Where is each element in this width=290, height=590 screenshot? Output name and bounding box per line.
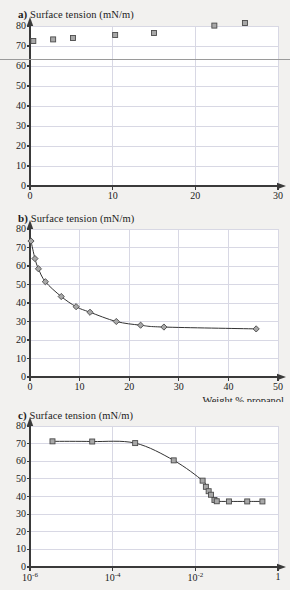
data-curve-c (52, 441, 262, 501)
data-point (50, 439, 55, 444)
plot-svg-a (30, 26, 278, 186)
plot-svg-c (30, 426, 278, 567)
x-axis-tick-label: 10 (93, 190, 133, 201)
y-axis-tick-label: 10 (2, 543, 26, 554)
y-axis-tick-label: 40 (2, 297, 26, 308)
panel-b-title: b) Surface tension (mN/m) (18, 212, 134, 224)
panel-c-title: c) Surface tension (mN/m) (18, 409, 133, 421)
y-axis-tick-label: 60 (2, 260, 26, 271)
x-axis-tick-label: 10-6 (10, 571, 50, 583)
x-axis-tick-label: 0 (10, 381, 50, 392)
data-point (242, 21, 247, 26)
data-point (70, 36, 75, 41)
y-axis-tick-label: 20 (2, 334, 26, 345)
x-axis-tick-label: 30 (159, 381, 199, 392)
y-axis-tick-label: 30 (2, 508, 26, 519)
x-axis-tick-label: 50 (258, 381, 290, 392)
panel-b-axis-title: Surface tension (mN/m) (31, 213, 135, 224)
y-axis-tick-label: 50 (2, 473, 26, 484)
x-axis-tick-label: 0 (10, 190, 50, 201)
panel-a-title: a) Surface tension (mN/m) (18, 8, 134, 20)
data-point (214, 499, 219, 504)
data-point (32, 256, 38, 262)
data-point (226, 499, 231, 504)
data-point (138, 322, 144, 328)
y-axis-tick-label: 60 (2, 60, 26, 71)
x-axis-tick-label: 10-4 (93, 571, 133, 583)
data-point (200, 478, 205, 483)
x-axis-tick-label: 20 (175, 190, 215, 201)
data-point (171, 458, 176, 463)
data-point (133, 441, 138, 446)
panel-b-plot (30, 229, 278, 377)
y-axis-tick-label: 40 (2, 100, 26, 111)
data-point (73, 304, 79, 310)
y-axis-tick-label: 10 (2, 160, 26, 171)
y-axis-tick-label: 70 (2, 438, 26, 449)
y-axis-tick-label: 20 (2, 140, 26, 151)
x-axis-tick-label: 10-2 (175, 571, 215, 583)
data-point (212, 23, 217, 28)
y-axis-tick-label: 50 (2, 80, 26, 91)
plot-svg-b (30, 229, 278, 377)
y-axis-tick-label: 40 (2, 491, 26, 502)
y-axis-tick-label: 70 (2, 242, 26, 253)
panel-a-letter: a) (18, 8, 27, 20)
y-axis-tick-label: 30 (2, 120, 26, 131)
data-point (87, 309, 93, 315)
data-point (51, 37, 56, 42)
x-axis-tick-label: 30 (258, 190, 290, 201)
data-point (113, 33, 118, 38)
panel-b: b) Surface tension (mN/m) 01020304050607… (0, 205, 290, 402)
y-axis-tick-label: 80 (2, 223, 26, 234)
panel-c-axis-title: Surface tension (mN/m) (29, 410, 133, 421)
data-point (90, 439, 95, 444)
y-axis-tick-label: 20 (2, 526, 26, 537)
x-axis-tick-label: 10 (60, 381, 100, 392)
data-point (245, 499, 250, 504)
data-point (35, 266, 41, 272)
panel-a-plot (30, 26, 278, 186)
x-axis-tick-label: 20 (109, 381, 149, 392)
data-point (31, 39, 36, 44)
data-point (28, 238, 34, 244)
data-point (113, 318, 119, 324)
data-point (260, 499, 265, 504)
x-axis-tick-label: 40 (208, 381, 248, 392)
data-point (152, 31, 157, 36)
panel-a: a) Surface tension (mN/m) 01020304050607… (0, 0, 290, 205)
y-axis-tick-label: 70 (2, 40, 26, 51)
y-axis-tick-label: 50 (2, 279, 26, 290)
panel-c-plot (30, 426, 278, 567)
panel-c: c) Surface tension (mN/m) 01020304050607… (0, 402, 290, 590)
y-axis-tick-label: 10 (2, 353, 26, 364)
y-axis-tick-label: 80 (2, 20, 26, 31)
data-point (209, 492, 214, 497)
data-point (161, 324, 167, 330)
y-axis-tick-label: 80 (2, 420, 26, 431)
x-axis-tick-label: 1 (258, 571, 290, 582)
data-point (253, 326, 259, 332)
horizontal-rule-artifact (0, 59, 290, 60)
y-axis-tick-label: 30 (2, 316, 26, 327)
panel-a-axis-title: Surface tension (mN/m) (30, 9, 134, 20)
y-axis-tick-label: 60 (2, 455, 26, 466)
